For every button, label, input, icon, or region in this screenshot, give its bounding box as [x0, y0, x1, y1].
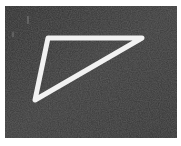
ground-texture — [5, 6, 177, 138]
photo: White triangular frame on dark textured … — [5, 6, 177, 138]
photo-canvas — [5, 6, 177, 138]
